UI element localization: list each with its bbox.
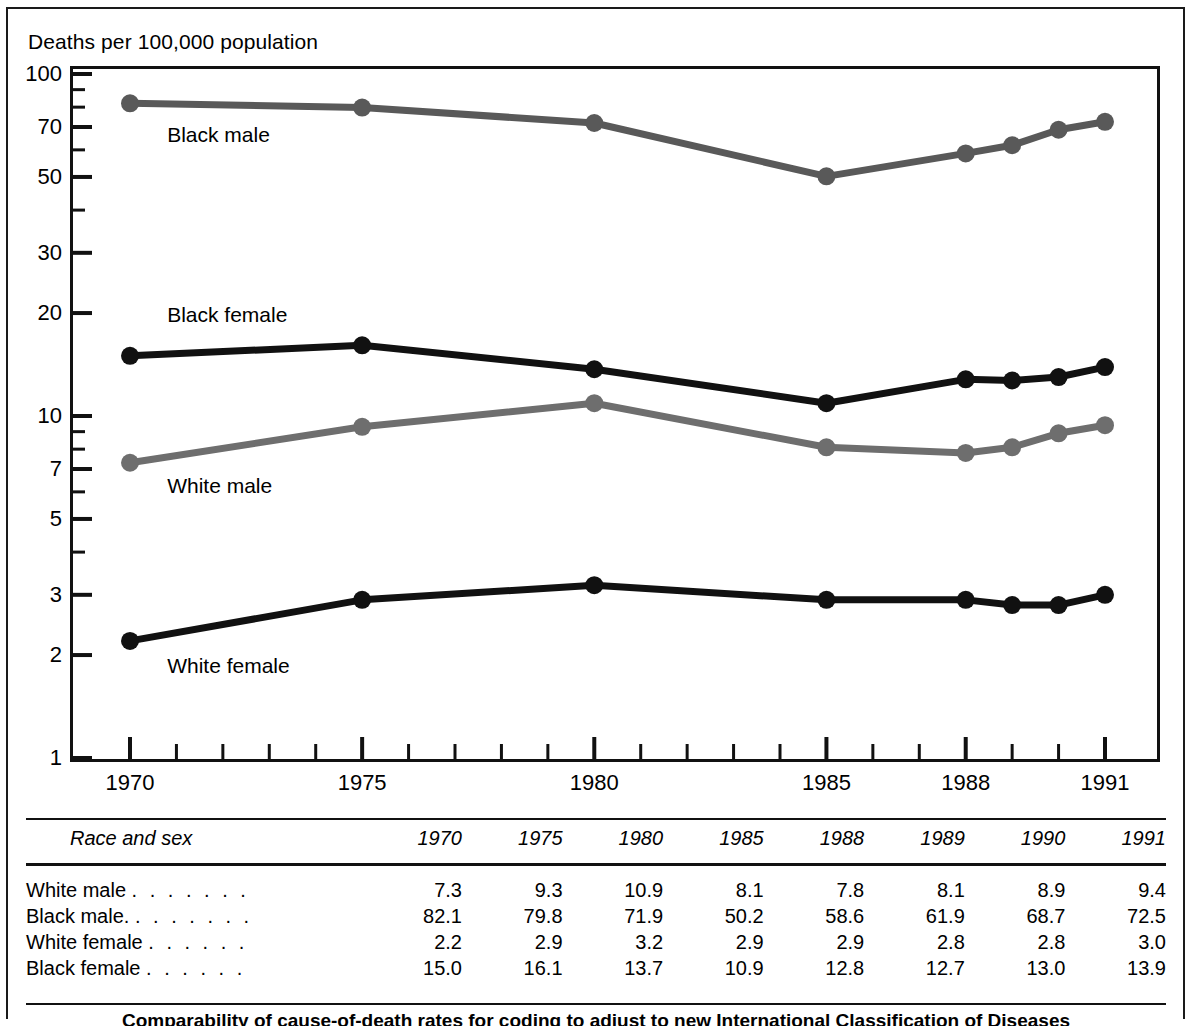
table-row-label: Black male. . . . . . . . — [26, 903, 361, 929]
series-label-black-male: Black male — [167, 123, 270, 147]
y-axis-labels: 100705030201075321 — [0, 66, 62, 762]
y-tick-label: 100 — [4, 61, 62, 87]
table-row: White female . . . . . .2.22.93.22.92.92… — [26, 929, 1166, 955]
series-label-white-female: White female — [167, 654, 290, 678]
x-axis-labels: 197019751980198519881991 — [70, 770, 1160, 804]
table-cell: 10.9 — [563, 877, 664, 903]
y-tick-label: 1 — [4, 745, 62, 771]
row-label-leader: . . . . . . . — [135, 905, 253, 927]
table-cell: 12.7 — [864, 955, 965, 981]
y-tick-label: 10 — [4, 403, 62, 429]
table-cell: 12.8 — [764, 955, 865, 981]
table-cell: 2.2 — [361, 929, 462, 955]
table-row: Black male. . . . . . . .82.179.871.950.… — [26, 903, 1166, 929]
table-row-label: Black female . . . . . . — [26, 955, 361, 981]
table-cell: 9.3 — [462, 877, 563, 903]
table-cell: 13.7 — [563, 955, 664, 981]
y-tick-label: 20 — [4, 300, 62, 326]
row-label-leader: . . . . . . — [146, 957, 246, 979]
table-cell: 8.1 — [663, 877, 764, 903]
table-cell: 10.9 — [663, 955, 764, 981]
x-tick-label: 1991 — [1081, 770, 1130, 796]
table-cell: 79.8 — [462, 903, 563, 929]
footnote-text: Comparability of cause-of-death rates fo… — [26, 1010, 1166, 1026]
y-tick-label: 7 — [4, 456, 62, 482]
table-row: Black female . . . . . .15.016.113.710.9… — [26, 955, 1166, 981]
table-header-year-1989: 1989 — [864, 818, 965, 860]
y-tick-label: 5 — [4, 506, 62, 532]
page-border-right — [1183, 7, 1185, 1019]
table-row-label: White male . . . . . . . — [26, 877, 361, 903]
y-tick-label: 3 — [4, 582, 62, 608]
table-cell: 15.0 — [361, 955, 462, 981]
table-header-year-1985: 1985 — [663, 818, 764, 860]
table-cell: 2.9 — [764, 929, 865, 955]
table-header-year-1988: 1988 — [764, 818, 865, 860]
table-cell: 72.5 — [1065, 903, 1166, 929]
table-cell: 3.2 — [563, 929, 664, 955]
table-cell: 2.9 — [663, 929, 764, 955]
table-cell: 61.9 — [864, 903, 965, 929]
table-rule-header — [26, 863, 1166, 866]
row-label-text: Black male. — [26, 905, 135, 927]
table-cell: 7.8 — [764, 877, 865, 903]
x-tick-label: 1988 — [941, 770, 990, 796]
table-cell: 68.7 — [965, 903, 1066, 929]
y-tick-label: 70 — [4, 114, 62, 140]
table-row-label: White female . . . . . . — [26, 929, 361, 955]
table-cell: 71.9 — [563, 903, 664, 929]
table-header-year-1991: 1991 — [1065, 818, 1166, 860]
table-header-year-1970: 1970 — [361, 818, 462, 860]
table-header-year-1980: 1980 — [563, 818, 664, 860]
row-label-text: White male — [26, 879, 132, 901]
row-label-text: Black female — [26, 957, 146, 979]
table-cell: 50.2 — [663, 903, 764, 929]
table-cell: 8.1 — [864, 877, 965, 903]
table-header-year-1975: 1975 — [462, 818, 563, 860]
row-label-leader: . . . . . . — [148, 931, 248, 953]
table-row: White male . . . . . . .7.39.310.98.17.8… — [26, 877, 1166, 903]
table-cell: 2.9 — [462, 929, 563, 955]
table-cell: 3.0 — [1065, 929, 1166, 955]
table-header-row: Race and sex 197019751980198519881989199… — [26, 818, 1166, 860]
x-tick-label: 1985 — [802, 770, 851, 796]
table-cell: 82.1 — [361, 903, 462, 929]
table-body: White male . . . . . . .7.39.310.98.17.8… — [26, 860, 1166, 981]
table-rule-top — [26, 818, 1166, 820]
table-cell: 2.8 — [965, 929, 1066, 955]
table-cell: 58.6 — [764, 903, 865, 929]
row-label-leader: . . . . . . . — [132, 879, 250, 901]
y-tick-label: 30 — [4, 240, 62, 266]
chart-axis-title: Deaths per 100,000 population — [28, 30, 318, 54]
table-cell: 13.0 — [965, 955, 1066, 981]
data-table: Race and sex 197019751980198519881989199… — [26, 818, 1166, 981]
table-cell: 9.4 — [1065, 877, 1166, 903]
table-cell: 2.8 — [864, 929, 965, 955]
table-rule-bottom — [26, 1003, 1166, 1005]
chart-plot-area: Black maleBlack femaleWhite maleWhite fe… — [70, 66, 1160, 762]
row-label-text: White female — [26, 931, 148, 953]
x-tick-label: 1980 — [570, 770, 619, 796]
data-table-block: Race and sex 197019751980198519881989199… — [26, 818, 1166, 981]
y-tick-label: 50 — [4, 164, 62, 190]
table-header-race-and-sex: Race and sex — [26, 818, 361, 860]
series-label-white-male: White male — [167, 474, 272, 498]
x-tick-label: 1975 — [338, 770, 387, 796]
series-label-black-female: Black female — [167, 303, 287, 327]
table-cell: 7.3 — [361, 877, 462, 903]
table-header-year-1990: 1990 — [965, 818, 1066, 860]
table-head: Race and sex 197019751980198519881989199… — [26, 818, 1166, 860]
table-cell: 16.1 — [462, 955, 563, 981]
table-cell: 13.9 — [1065, 955, 1166, 981]
table-cell: 8.9 — [965, 877, 1066, 903]
x-tick-label: 1970 — [106, 770, 155, 796]
y-tick-label: 2 — [4, 642, 62, 668]
